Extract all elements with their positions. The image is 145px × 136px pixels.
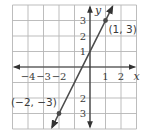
y-tick-label: 2 (80, 93, 86, 104)
data-point (103, 18, 108, 23)
data-point (57, 111, 62, 116)
y-tick-label: 2 (80, 31, 86, 42)
data-point-label: (−2, −3) (11, 96, 57, 108)
y-tick-label: 3 (80, 15, 86, 26)
x-tick-label: −4 (21, 71, 36, 82)
y-axis-label: y (94, 4, 102, 17)
x-tick-label: 2 (118, 71, 124, 82)
x-tick-label: −3 (36, 71, 51, 82)
x-tick-label: 1 (102, 71, 108, 82)
coordinate-plane: −4−3−21232123 (1, 3)(−2, −3) x y (0, 0, 145, 136)
x-tick-label: −2 (52, 71, 67, 82)
y-tick-label: 1 (80, 46, 86, 57)
data-point-label: (1, 3) (109, 23, 137, 35)
y-tick-label: 3 (80, 108, 86, 119)
x-axis-label: x (134, 70, 141, 83)
